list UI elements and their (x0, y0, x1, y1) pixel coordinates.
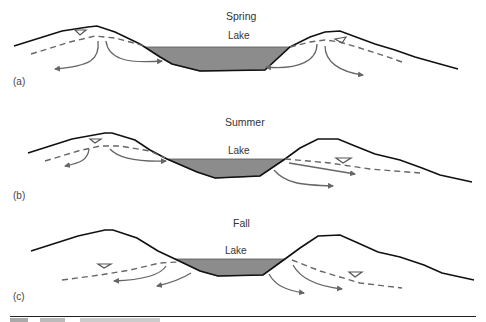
flow-arrow-b-2 (110, 149, 166, 161)
lake-label-a: Lake (228, 30, 250, 41)
panel-label-c: (c) (13, 291, 25, 302)
panel-label-b: (b) (13, 190, 25, 201)
flow-arrow-a-4 (325, 46, 363, 75)
water-table-marker-c-right (349, 272, 362, 277)
water-table-marker-c-left (98, 264, 111, 268)
flow-arrow-c-4 (269, 274, 304, 293)
caption-truncated (10, 318, 160, 322)
flow-arrow-c-1 (114, 266, 166, 281)
flow-arrow c-2 (157, 273, 191, 286)
lake-groundwater-seasonal-diagram: Spring Lake (a) Summer Lake (b) Fall Lak… (0, 0, 486, 322)
water-table-marker-a-left (75, 30, 86, 35)
water-table-marker-b-right (336, 158, 351, 163)
panel-label-a: (a) (13, 76, 25, 87)
lake-label-b: Lake (228, 145, 250, 156)
lake-water-b (167, 159, 285, 178)
water-table-marker-b-left (90, 139, 101, 143)
panel-c-fall (31, 230, 474, 293)
season-title-summer: Summer (225, 116, 265, 128)
flow-arrow-b-4 (274, 170, 333, 186)
caption-divider (10, 316, 476, 317)
water-table-marker-a-right (335, 37, 346, 43)
lake-label-c: Lake (225, 245, 247, 256)
panel-b-summer (28, 133, 472, 186)
water-table-c-right (292, 260, 402, 288)
water-table-a-right (290, 40, 402, 62)
season-title-spring: Spring (226, 10, 256, 22)
diagram-canvas (0, 0, 486, 322)
flow-arrow-c-3 (293, 265, 342, 289)
season-title-fall: Fall (233, 217, 250, 229)
